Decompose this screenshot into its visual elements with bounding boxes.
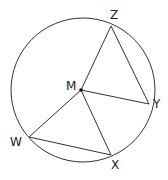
- segment-mz: [81, 26, 111, 90]
- label-w: W: [10, 136, 22, 148]
- segment-my: [81, 90, 149, 104]
- geometry-diagram: M Z Y X W: [0, 0, 168, 180]
- chord-zy: [111, 26, 149, 104]
- center-point: [79, 88, 83, 92]
- segment-mw: [29, 90, 81, 137]
- label-x: X: [111, 159, 119, 171]
- diagram-canvas: [0, 0, 168, 180]
- segment-mx: [81, 90, 111, 155]
- label-z: Z: [110, 9, 118, 21]
- label-m: M: [66, 80, 76, 92]
- label-y: Y: [153, 98, 160, 110]
- chord-wx: [29, 137, 111, 155]
